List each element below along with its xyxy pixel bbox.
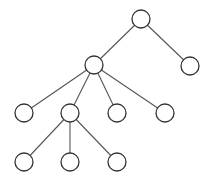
tree-node-root xyxy=(132,10,150,28)
tree-edge-a2-a2a xyxy=(24,113,70,162)
tree-node-a1 xyxy=(15,104,33,122)
tree-edges xyxy=(24,19,190,162)
tree-node-a2c xyxy=(108,153,126,171)
tree-edge-root-a xyxy=(94,19,141,65)
tree-node-a2 xyxy=(61,104,79,122)
tree-edge-a-a4 xyxy=(94,65,165,113)
tree-node-a4 xyxy=(156,104,174,122)
tree-node-a2b xyxy=(61,153,79,171)
tree-node-a2a xyxy=(15,153,33,171)
tree-diagram xyxy=(0,0,211,183)
tree-edge-a2-a2c xyxy=(70,113,117,162)
tree-node-a3 xyxy=(108,104,126,122)
tree-nodes xyxy=(15,10,199,171)
tree-node-a xyxy=(85,56,103,74)
tree-edge-root-b xyxy=(141,19,190,66)
tree-node-b xyxy=(181,57,199,75)
tree-edge-a-a1 xyxy=(24,65,94,113)
